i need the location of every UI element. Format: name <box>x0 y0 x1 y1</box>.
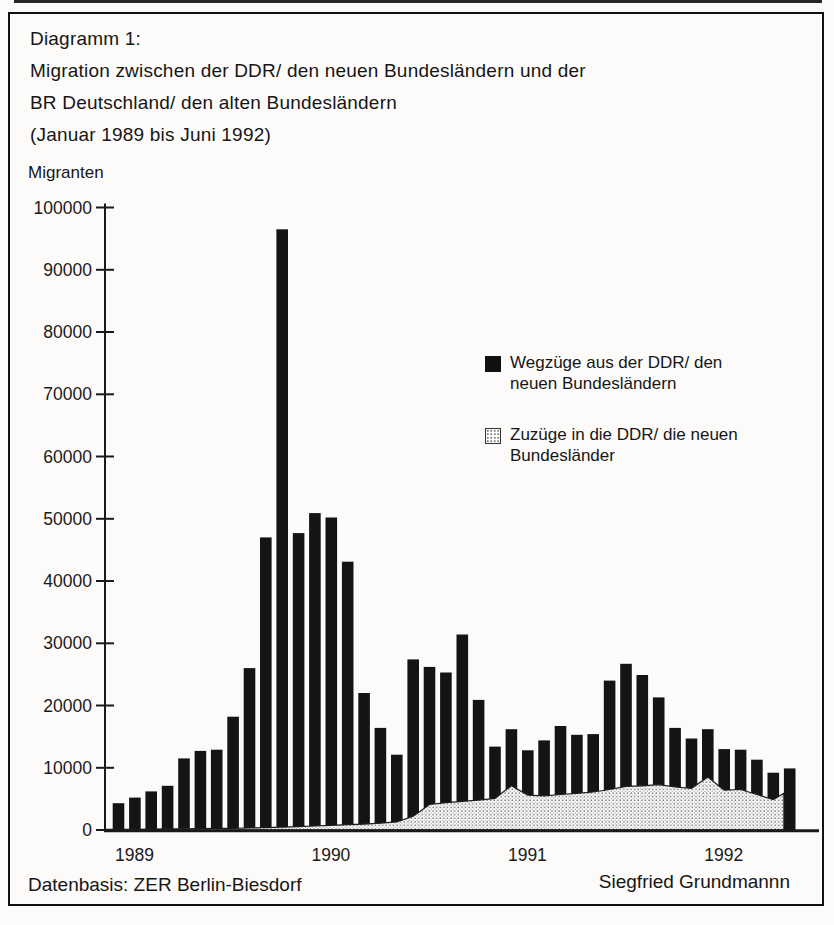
data-source-note: Datenbasis: ZER Berlin-Biesdorf <box>28 874 302 896</box>
bar-wegzuege-1990-05 <box>375 728 387 830</box>
zuzuege-swatch-icon <box>485 428 501 444</box>
y-tick-label-60000: 60000 <box>43 447 92 467</box>
bar-wegzuege-1989-04 <box>162 786 174 830</box>
y-tick-label-10000: 10000 <box>43 758 92 778</box>
bar-wegzuege-1990-04 <box>358 693 370 830</box>
bar-wegzuege-1989-01 <box>113 803 125 830</box>
bar-wegzuege-1989-02 <box>129 798 141 830</box>
legend-wegzuege-line1: Wegzüge aus der DDR/ den <box>510 352 722 373</box>
legend-zuzuege-line1: Zuzüge in die DDR/ die neuen <box>510 424 738 445</box>
bar-wegzuege-1989-08 <box>227 717 239 830</box>
y-tick-label-50000: 50000 <box>43 509 92 529</box>
legend-item-wegzuege: Wegzüge aus der DDR/ den neuen Bundeslän… <box>485 352 722 394</box>
bar-wegzuege-1990-01 <box>309 513 321 830</box>
bar-wegzuege-1989-11 <box>276 229 288 830</box>
y-tick-label-40000: 40000 <box>43 571 92 591</box>
legend-zuzuege-line2: Bundesländer <box>510 445 738 466</box>
bar-wegzuege-1990-02 <box>326 518 338 831</box>
author-name: Siegfried Grundmannn <box>599 871 790 893</box>
bar-wegzuege-1989-07 <box>211 750 223 830</box>
wegzuege-swatch-icon <box>485 356 501 372</box>
y-tick-label-0: 0 <box>82 820 92 840</box>
bar-wegzuege-1990-07 <box>407 659 419 830</box>
x-year-label-1990: 1990 <box>311 845 350 865</box>
y-tick-label-90000: 90000 <box>43 260 92 280</box>
bar-wegzuege-1989-10 <box>260 537 272 830</box>
legend-wegzuege-line2: neuen Bundesländern <box>510 373 722 394</box>
x-year-label-1989: 1989 <box>115 845 154 865</box>
y-tick-label-80000: 80000 <box>43 322 92 342</box>
legend-item-zuzuege: Zuzüge in die DDR/ die neuen Bundeslände… <box>485 424 738 466</box>
scanned-diagram-page: Diagramm 1: Migration zwischen der DDR/ … <box>0 0 834 925</box>
bar-wegzuege-1992-06 <box>784 768 796 830</box>
x-year-label-1992: 1992 <box>704 845 743 865</box>
y-tick-label-70000: 70000 <box>43 384 92 404</box>
y-tick-label-100000: 100000 <box>34 198 93 218</box>
y-tick-label-20000: 20000 <box>43 696 92 716</box>
bar-wegzuege-1989-05 <box>178 758 190 830</box>
bar-wegzuege-1989-09 <box>244 668 256 830</box>
bar-wegzuege-1989-12 <box>293 533 305 830</box>
wegzuege-bars <box>113 229 796 830</box>
bar-wegzuege-1989-06 <box>195 751 207 830</box>
y-tick-label-30000: 30000 <box>43 633 92 653</box>
bar-wegzuege-1990-03 <box>342 562 354 830</box>
bar-wegzuege-1989-03 <box>145 791 157 830</box>
x-year-label-1991: 1991 <box>508 845 547 865</box>
bar-wegzuege-1990-06 <box>391 755 403 830</box>
